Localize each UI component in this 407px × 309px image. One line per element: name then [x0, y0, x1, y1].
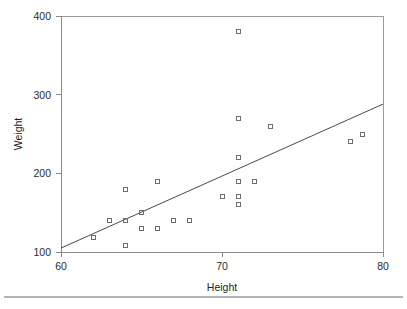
scatter-point — [156, 179, 160, 183]
scatter-point — [172, 219, 176, 223]
x-tick-label-80: 80 — [377, 260, 389, 272]
plot-canvas: 400 300 200 100 60 70 80 Height Weight — [0, 0, 407, 309]
scatter-point — [252, 179, 256, 183]
x-tick-label-70: 70 — [216, 260, 228, 272]
scatter-point — [123, 187, 127, 191]
y-axis-title: Weight — [12, 118, 24, 151]
scatter-point — [236, 156, 240, 160]
x-tick-label-60: 60 — [55, 260, 67, 272]
y-tick-label-200: 200 — [33, 167, 51, 179]
scatter-point — [236, 179, 240, 183]
y-tick-label-300: 300 — [33, 89, 51, 101]
scatter-point — [123, 244, 127, 248]
scatter-point — [91, 236, 95, 240]
scatter-point — [220, 195, 224, 199]
y-axis-ticks — [56, 16, 61, 252]
scatter-point — [107, 219, 111, 223]
scatter-point — [236, 195, 240, 199]
scatter-point — [349, 140, 353, 144]
scatter-point — [360, 132, 364, 136]
scatter-points-group — [91, 30, 364, 248]
scatter-plot-figure: 400 300 200 100 60 70 80 Height Weight — [0, 0, 407, 309]
y-tick-label-100: 100 — [33, 246, 51, 258]
scatter-point — [268, 124, 272, 128]
scatter-point — [140, 226, 144, 230]
scatter-point — [156, 226, 160, 230]
x-axis-title: Height — [207, 281, 237, 293]
scatter-point — [188, 219, 192, 223]
y-tick-label-400: 400 — [33, 10, 51, 22]
regression-line — [61, 104, 383, 248]
scatter-point — [236, 116, 240, 120]
x-axis-ticks — [61, 252, 383, 257]
scatter-point — [236, 203, 240, 207]
scatter-point — [236, 30, 240, 34]
